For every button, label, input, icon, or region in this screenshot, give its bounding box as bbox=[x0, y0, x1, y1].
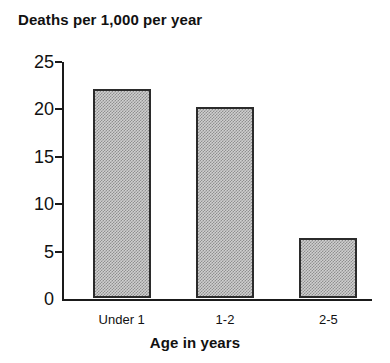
y-axis-tick bbox=[55, 251, 62, 253]
y-axis-tick-label: 0 bbox=[14, 290, 54, 308]
chart-title: Deaths per 1,000 per year bbox=[18, 11, 202, 28]
y-axis-tick bbox=[55, 61, 62, 63]
y-axis-line bbox=[62, 62, 64, 301]
x-axis-tick-label: 2-5 bbox=[268, 312, 388, 327]
y-axis-tick-label: 20 bbox=[14, 100, 54, 118]
chart-figure: Deaths per 1,000 per year 0510152025 Und… bbox=[0, 0, 390, 363]
y-axis-tick-label: 5 bbox=[14, 243, 54, 261]
y-axis-tick bbox=[55, 108, 62, 110]
y-axis-tick-labels: 0510152025 bbox=[10, 62, 54, 301]
bar bbox=[299, 238, 357, 298]
y-axis-tick-label: 10 bbox=[14, 195, 54, 213]
y-axis-tick bbox=[55, 203, 62, 205]
y-axis-tick bbox=[55, 156, 62, 158]
plot-area: 0510152025 Under 11-22-5 bbox=[62, 62, 372, 300]
y-axis-tick-label: 25 bbox=[14, 53, 54, 71]
y-axis-tick-label: 15 bbox=[14, 148, 54, 166]
x-axis-title: Age in years bbox=[0, 334, 390, 351]
x-axis-tick-label: 1-2 bbox=[165, 312, 285, 327]
bar bbox=[196, 107, 254, 298]
bar bbox=[93, 89, 151, 298]
x-axis-tick-label: Under 1 bbox=[62, 312, 182, 327]
x-axis-line bbox=[62, 299, 372, 301]
